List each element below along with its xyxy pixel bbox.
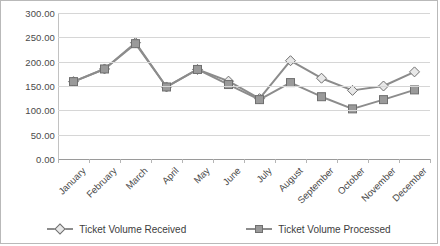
y-axis-labels: 0.0050.00100.00150.00200.00250.00300.00: [1, 1, 55, 246]
gridline: [58, 110, 430, 111]
plot-area: [58, 13, 430, 159]
x-axis-labels: JanuaryFebruaryMarchAprilMayJuneJulyAugu…: [58, 161, 430, 217]
gridline: [58, 37, 430, 38]
x-axis-tick-label: August: [276, 165, 305, 194]
data-point-marker: [101, 65, 109, 73]
series-line-processed: [74, 44, 415, 109]
gridline: [58, 135, 430, 136]
y-axis-tick-label: 250.00: [3, 32, 55, 43]
chart-legend: Ticket Volume Received Ticket Volume Pro…: [1, 219, 437, 239]
x-axis-tick-label: January: [56, 165, 88, 197]
x-axis-tick: [89, 159, 90, 163]
legend-item-received[interactable]: Ticket Volume Received: [47, 223, 186, 235]
x-axis-tick: [337, 159, 338, 163]
chart-container: 0.0050.00100.00150.00200.00250.00300.00 …: [0, 0, 438, 244]
data-point-marker: [349, 105, 357, 113]
square-marker-icon: [246, 223, 272, 235]
data-point-marker: [225, 81, 233, 89]
y-axis-tick-label: 300.00: [3, 8, 55, 19]
data-point-marker: [70, 78, 78, 86]
x-axis-tick-label: May: [191, 165, 211, 185]
gridline: [58, 13, 430, 14]
y-axis-tick-label: 50.00: [3, 129, 55, 140]
series-line-received: [74, 43, 415, 99]
x-axis-tick: [120, 159, 121, 163]
y-axis-tick-label: 100.00: [3, 105, 55, 116]
legend-item-processed[interactable]: Ticket Volume Processed: [246, 223, 390, 235]
x-axis-tick: [368, 159, 369, 163]
data-point-marker: [194, 65, 202, 73]
x-axis-tick-label: April: [159, 165, 180, 186]
x-axis-tick: [213, 159, 214, 163]
legend-label-processed: Ticket Volume Processed: [278, 224, 390, 235]
data-point-marker: [318, 93, 326, 101]
y-axis-tick-label: 150.00: [3, 81, 55, 92]
x-axis-tick-label: March: [123, 165, 149, 191]
x-axis-tick: [275, 159, 276, 163]
x-axis-tick: [430, 159, 431, 163]
x-axis-tick-label: February: [84, 165, 119, 200]
data-point-marker: [317, 73, 327, 83]
x-axis-tick: [399, 159, 400, 163]
y-axis-tick-label: 200.00: [3, 56, 55, 67]
data-point-marker: [411, 86, 419, 94]
gridline: [58, 62, 430, 63]
data-point-marker: [410, 67, 420, 77]
x-axis-tick: [244, 159, 245, 163]
data-point-marker: [380, 96, 388, 104]
x-axis-tick-label: July: [254, 165, 274, 185]
x-axis-tick: [182, 159, 183, 163]
data-point-marker: [132, 40, 140, 48]
legend-label-received: Ticket Volume Received: [79, 224, 186, 235]
diamond-marker-icon: [47, 223, 73, 235]
x-axis-tick: [151, 159, 152, 163]
x-axis-tick-label: June: [220, 165, 242, 187]
data-point-marker: [256, 96, 264, 104]
x-axis-tick: [58, 159, 59, 163]
y-axis-tick-label: 0.00: [3, 154, 55, 165]
x-axis-tick: [306, 159, 307, 163]
gridline: [58, 86, 430, 87]
